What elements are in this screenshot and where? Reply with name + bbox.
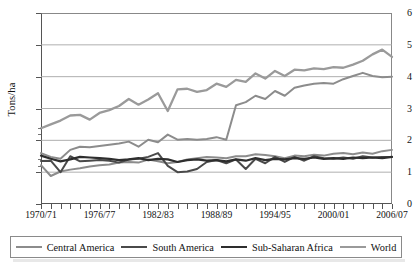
series-line-south-america	[41, 153, 392, 172]
x-axis-tick-mark	[129, 204, 130, 209]
y-axis-tick-mark	[36, 109, 41, 110]
y-axis-minor-tick	[38, 134, 41, 135]
x-axis-tick-label: 1976/77	[70, 210, 130, 220]
x-axis-tick-mark	[139, 204, 140, 209]
x-axis-tick-mark	[353, 204, 354, 209]
x-axis-tick-mark	[197, 204, 198, 209]
y-axis-minor-tick	[38, 159, 41, 160]
y-axis-tick-label: 6	[382, 8, 412, 18]
x-axis-tick-label: 1994/95	[245, 210, 305, 220]
y-axis-tick-mark	[36, 172, 41, 173]
legend-shadow	[13, 259, 405, 262]
y-axis-minor-tick	[38, 166, 41, 167]
series-layer	[0, 0, 412, 232]
x-axis-tick-label: 2000/01	[304, 210, 364, 220]
series-line-world	[41, 50, 392, 129]
y-axis-tick-mark	[36, 13, 41, 14]
y-axis-minor-tick	[38, 128, 41, 129]
x-axis-tick-mark	[187, 204, 188, 209]
chart-plot-area: Tons/ha 01234561970/711976/771982/831988…	[0, 0, 412, 232]
y-axis-tick-mark	[36, 140, 41, 141]
y-axis-tick-label: 0	[382, 199, 412, 209]
y-axis-tick-label: 1	[382, 167, 412, 177]
y-axis-tick-label: 5	[382, 40, 412, 50]
legend-label-sub-saharan-africa: Sub-Saharan Africa	[252, 242, 333, 253]
y-axis-tick-mark	[36, 45, 41, 46]
x-axis-tick-label: 2006/07	[362, 210, 417, 220]
legend-label-south-america: South America	[152, 242, 214, 253]
x-axis-tick-mark	[80, 204, 81, 209]
chart-legend: Central AmericaSouth AmericaSub-Saharan …	[10, 236, 402, 258]
legend-swatch-sub-saharan-africa	[221, 246, 247, 248]
y-axis-tick-label: 4	[382, 72, 412, 82]
x-axis-tick-mark	[363, 204, 364, 209]
x-axis-tick-mark	[236, 204, 237, 209]
y-axis-tick-label: 3	[382, 104, 412, 114]
legend-swatch-central-america	[16, 246, 42, 248]
legend-swatch-world	[340, 246, 366, 248]
legend-item-central-america[interactable]: Central America	[16, 242, 115, 253]
x-axis-tick-mark	[314, 204, 315, 209]
legend-item-sub-saharan-africa[interactable]: Sub-Saharan Africa	[221, 242, 333, 253]
x-axis-tick-mark	[246, 204, 247, 209]
legend-label-central-america: Central America	[47, 242, 115, 253]
x-axis-tick-mark	[256, 204, 257, 209]
legend-swatch-south-america	[121, 246, 147, 248]
x-axis-tick-label: 1982/83	[128, 210, 188, 220]
x-axis-tick-mark	[178, 204, 179, 209]
x-axis-tick-label: 1988/89	[187, 210, 247, 220]
x-axis-tick-label: 1970/71	[11, 210, 71, 220]
legend-item-world[interactable]: World	[340, 242, 396, 253]
legend-item-south-america[interactable]: South America	[121, 242, 214, 253]
y-axis-tick-mark	[36, 77, 41, 78]
x-axis-tick-mark	[70, 204, 71, 209]
y-axis-tick-label: 2	[382, 135, 412, 145]
x-axis-tick-mark	[373, 204, 374, 209]
x-axis-tick-mark	[295, 204, 296, 209]
legend-label-world: World	[371, 242, 396, 253]
x-axis-tick-mark	[304, 204, 305, 209]
x-axis-tick-mark	[119, 204, 120, 209]
x-axis-tick-mark	[61, 204, 62, 209]
